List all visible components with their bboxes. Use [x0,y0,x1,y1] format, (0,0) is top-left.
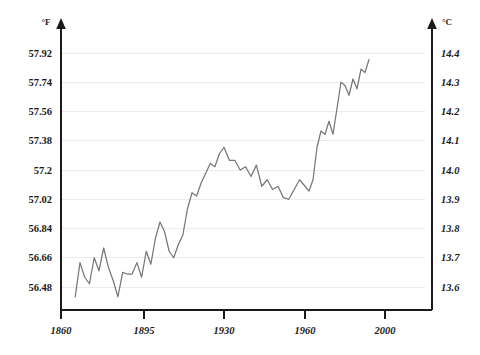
y-axis-right-tick-label: 13.8 [441,223,460,234]
y-axis-right-tick-label: 14.2 [441,106,460,117]
y-axis-left-tick-label: 57.38 [28,135,52,146]
y-axis-right-tick-label: 14.1 [441,135,459,146]
right-axis [427,18,437,310]
x-axis-tick-label: 1860 [51,325,73,336]
y-axis-left-tick-label: 57.2 [34,165,52,176]
y-axis-right-tick-label: 13.7 [441,252,460,263]
y-axis-right-tick-label: 14.4 [441,48,459,59]
y-axis-right-tick-label: 14.0 [441,165,460,176]
y-axis-left-tick-label: 56.66 [28,252,52,263]
y-axis-right-tick-label: 13.9 [441,194,460,205]
x-axis-tick-label: 1960 [295,325,317,336]
right-axis-unit-label: °C [442,17,452,27]
temperature-series-line [75,60,369,297]
left-axis-unit-label: °F [41,17,51,27]
y-axis-left-tick-label: 57.74 [28,77,52,88]
y-axis-right-tick-label: 13.6 [441,282,460,293]
x-axis-tick-label: 1895 [134,325,155,336]
y-axis-right-tick-label: 14.3 [441,77,459,88]
y-axis-left-tick-label: 57.92 [28,48,52,59]
right-axis-arrow-icon [427,18,437,29]
x-axis-tick-label: 1930 [214,325,236,336]
y-axis-left-tick-label: 56.84 [28,223,52,234]
gridlines [61,53,425,287]
left-axis-arrow-icon [56,18,66,29]
temperature-chart: °F °C 57.9257.7457.5657.3857.257.0256.84… [0,0,480,355]
tick-marks [61,310,385,319]
y-axis-left-tick-label: 57.56 [28,106,52,117]
y-axis-left-tick-label: 56.48 [28,282,52,293]
y-axis-left-tick-label: 57.02 [28,194,52,205]
y-axis-right-labels: 14.414.314.214.114.013.913.813.713.6 [441,48,460,293]
chart-canvas: °F °C 57.9257.7457.5657.3857.257.0256.84… [0,0,480,355]
x-axis-labels: 18601895193019602000 [51,325,397,336]
left-axis [56,18,66,310]
y-axis-left-labels: 57.9257.7457.5657.3857.257.0256.8456.665… [28,48,52,293]
x-axis-tick-label: 2000 [374,325,397,336]
